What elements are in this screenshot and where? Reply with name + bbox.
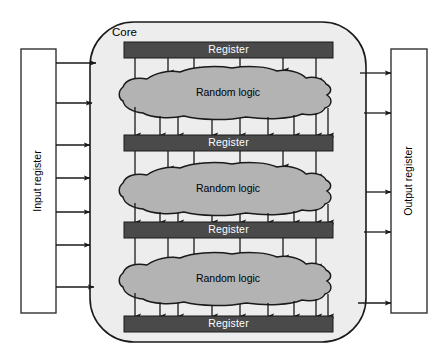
register-bar-3: Register [124, 222, 333, 238]
register-bar-4-label: Register [208, 317, 249, 329]
core-pipeline-diagram: Core Input register Output register [0, 0, 445, 359]
input-register: Input register [21, 49, 56, 313]
output-register: Output register [391, 49, 427, 313]
register-bar-1: Register [124, 42, 333, 58]
register-bar-2: Register [124, 135, 333, 151]
output-register-label: Output register [402, 146, 414, 216]
register-bar-1-label: Register [208, 43, 249, 55]
input-register-label: Input register [31, 150, 43, 212]
logic-block-3-label: Random logic [196, 272, 260, 284]
logic-block-1-label: Random logic [196, 86, 260, 98]
register-bar-3-label: Register [208, 223, 249, 235]
diagram-canvas: Core Input register Output register [0, 0, 445, 359]
core-label: Core [112, 26, 137, 38]
register-bar-2-label: Register [208, 136, 249, 148]
logic-block-2-label: Random logic [196, 182, 260, 194]
register-bar-4: Register [124, 316, 333, 332]
